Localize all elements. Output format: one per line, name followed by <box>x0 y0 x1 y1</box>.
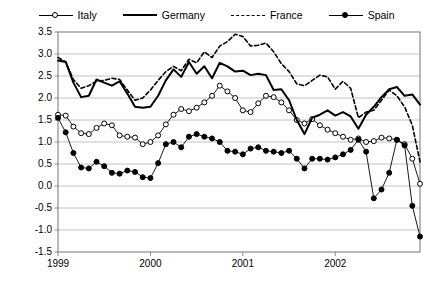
data-point-spain <box>325 157 330 162</box>
plot-area: 3.53.02.52.01.51.00.50.0-0.5-1.0-1.51999… <box>0 0 433 287</box>
data-point-spain <box>117 171 122 176</box>
data-point-spain <box>225 148 230 153</box>
data-point-italy <box>71 124 76 129</box>
data-point-italy <box>102 121 107 126</box>
series-line-spain <box>58 118 420 237</box>
data-point-spain <box>63 130 68 135</box>
line-chart: Italy Germany France Spain 3.53.02.52.01… <box>0 0 433 287</box>
data-point-spain <box>56 115 61 120</box>
data-point-italy <box>263 93 268 98</box>
data-point-italy <box>387 136 392 141</box>
y-axis-tick-label: 0.0 <box>2 181 52 191</box>
data-point-spain <box>217 140 222 145</box>
data-point-italy <box>171 112 176 117</box>
data-point-spain <box>194 132 199 137</box>
data-point-italy <box>379 135 384 140</box>
data-point-spain <box>79 165 84 170</box>
y-axis-tick-label: 1.5 <box>2 115 52 125</box>
data-point-italy <box>325 127 330 132</box>
data-point-italy <box>163 122 168 127</box>
data-point-spain <box>256 145 261 150</box>
data-point-italy <box>186 109 191 114</box>
data-point-spain <box>102 164 107 169</box>
data-point-spain <box>294 156 299 161</box>
data-point-spain <box>279 151 284 156</box>
data-point-spain <box>210 136 215 141</box>
data-point-spain <box>371 196 376 201</box>
data-point-italy <box>86 132 91 137</box>
data-point-italy <box>140 142 145 147</box>
data-point-italy <box>94 125 99 130</box>
x-axis-tick-label: 2001 <box>218 259 268 269</box>
data-point-italy <box>271 95 276 100</box>
y-axis-tick-label: 0.5 <box>2 159 52 169</box>
data-point-spain <box>156 161 161 166</box>
data-point-italy <box>256 101 261 106</box>
data-point-italy <box>210 93 215 98</box>
data-point-italy <box>225 89 230 94</box>
data-point-italy <box>317 123 322 128</box>
data-point-spain <box>202 134 207 139</box>
data-point-italy <box>63 113 68 118</box>
data-point-spain <box>86 166 91 171</box>
data-point-italy <box>133 135 138 140</box>
data-point-spain <box>133 169 138 174</box>
data-point-spain <box>179 145 184 150</box>
y-axis-tick-label: -1.0 <box>2 225 52 235</box>
data-point-spain <box>379 187 384 192</box>
data-point-italy <box>364 140 369 145</box>
data-point-italy <box>248 110 253 115</box>
data-point-spain <box>348 147 353 152</box>
data-point-italy <box>279 100 284 105</box>
data-point-italy <box>156 133 161 138</box>
data-point-spain <box>333 155 338 160</box>
data-point-spain <box>140 175 145 180</box>
data-point-italy <box>418 181 423 186</box>
y-axis-tick-label: 1.0 <box>2 137 52 147</box>
data-point-spain <box>302 166 307 171</box>
data-point-italy <box>371 139 376 144</box>
data-point-spain <box>248 146 253 151</box>
y-axis-tick-label: 2.0 <box>2 93 52 103</box>
data-point-spain <box>109 170 114 175</box>
data-point-spain <box>410 203 415 208</box>
data-point-spain <box>240 152 245 157</box>
data-point-italy <box>410 156 415 161</box>
data-point-italy <box>117 133 122 138</box>
data-point-spain <box>125 168 130 173</box>
data-point-spain <box>263 148 268 153</box>
data-point-italy <box>333 131 338 136</box>
x-axis-tick-label: 2000 <box>125 259 175 269</box>
data-point-spain <box>340 152 345 157</box>
data-point-spain <box>317 156 322 161</box>
data-point-italy <box>217 83 222 88</box>
data-point-italy <box>179 107 184 112</box>
data-point-spain <box>163 142 168 147</box>
data-point-spain <box>94 159 99 164</box>
data-point-italy <box>233 96 238 101</box>
y-axis-tick-label: 3.5 <box>2 27 52 37</box>
data-point-spain <box>71 151 76 156</box>
data-point-spain <box>186 134 191 139</box>
data-point-italy <box>287 108 292 113</box>
data-point-italy <box>240 108 245 113</box>
plot-svg <box>0 0 433 287</box>
y-axis-tick-label: -1.5 <box>2 247 52 257</box>
data-point-italy <box>340 134 345 139</box>
data-point-italy <box>302 121 307 126</box>
data-point-spain <box>171 140 176 145</box>
data-point-spain <box>418 234 423 239</box>
series-line-italy <box>58 86 420 184</box>
data-point-spain <box>364 149 369 154</box>
data-point-spain <box>148 176 153 181</box>
data-point-spain <box>402 143 407 148</box>
data-point-italy <box>125 134 130 139</box>
y-axis-tick-label: 3.0 <box>2 49 52 59</box>
data-point-spain <box>233 149 238 154</box>
data-point-italy <box>348 137 353 142</box>
data-point-italy <box>202 100 207 105</box>
x-axis-tick-label: 1999 <box>33 259 83 269</box>
data-point-italy <box>109 123 114 128</box>
data-point-spain <box>387 170 392 175</box>
y-axis-tick-label: 2.5 <box>2 71 52 81</box>
